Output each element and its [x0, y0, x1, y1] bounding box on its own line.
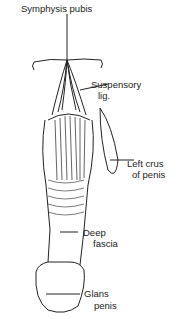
label-deep-fascia: Deep: [83, 227, 106, 238]
label-suspensory-ligament-2: lig.: [98, 90, 110, 101]
label-deep-fascia-2: fascia: [93, 238, 118, 249]
label-left-crus-2: of penis: [132, 169, 165, 180]
label-glans-penis-2: penis: [94, 300, 117, 311]
label-suspensory-ligament: Suspensory: [91, 79, 141, 90]
label-left-crus: Left crus: [127, 158, 163, 169]
label-glans-penis: Glans: [84, 288, 109, 299]
label-symphysis-pubis: Symphysis pubis: [21, 3, 92, 14]
